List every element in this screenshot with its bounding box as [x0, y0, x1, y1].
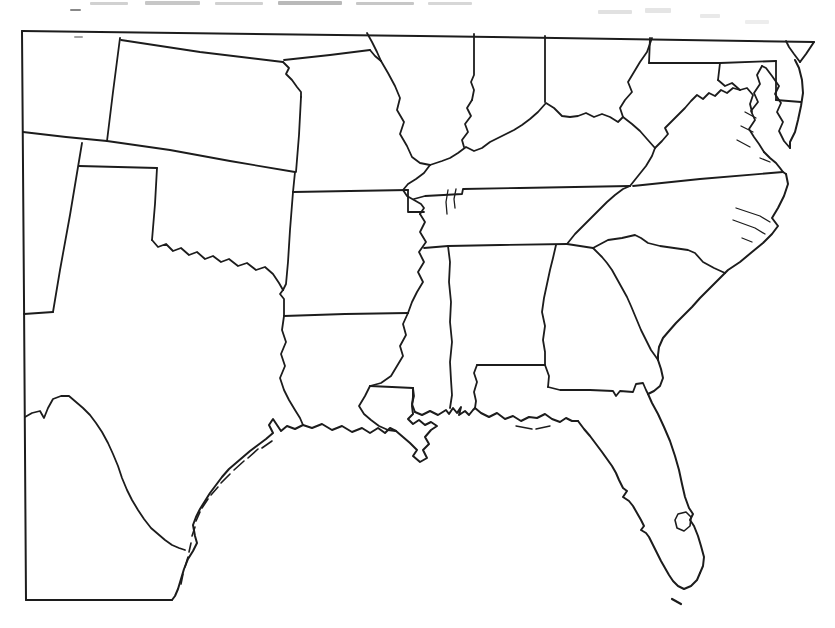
border-texas-arkansas — [280, 290, 284, 316]
border-newmexico-east — [53, 143, 82, 312]
border-florida-georgia — [548, 383, 648, 396]
river-mississippi-missouri-illinois — [381, 61, 430, 165]
sound-spit — [742, 238, 752, 242]
florida-keys — [672, 599, 681, 604]
border-colorado-kansas — [107, 38, 120, 141]
lake-okeechobee — [675, 512, 691, 531]
neatline-left — [22, 31, 26, 600]
scan-artifact-smudge — [145, 1, 200, 5]
sound-albemarle — [736, 208, 770, 222]
river-red-texas-oklahoma — [152, 240, 283, 290]
border-mason-dixon — [649, 61, 776, 63]
scan-artifact-smudge — [598, 10, 632, 14]
barrier-islands-texas — [189, 543, 191, 552]
coast-florida-east — [648, 394, 704, 573]
border-tennessee-south — [424, 244, 567, 248]
river-potomac — [718, 80, 753, 112]
river-mississippi-arkansas-tennessee — [408, 214, 426, 313]
border-iowa-missouri — [284, 50, 370, 60]
river-mississippi-upper — [367, 33, 381, 61]
border-oklahoma-missouri — [293, 172, 295, 192]
scan-artifact-smudge — [70, 9, 81, 11]
coast-southcarolina — [658, 273, 725, 360]
spit-apalachicola — [516, 426, 532, 429]
scan-artifact-smudge — [428, 2, 472, 5]
border-westvirginia-virginia — [655, 88, 740, 148]
border-texas-panhandle-east — [152, 168, 157, 240]
scan-artifact-smudge — [90, 2, 128, 5]
border-ohio-pennsylvania — [649, 38, 650, 63]
border-oklahoma-arkansas — [283, 192, 293, 290]
border-oklahoma-panhandle-south — [79, 166, 157, 168]
coast-delmarva-atlantic — [790, 60, 803, 148]
scan-artifact-smudge — [356, 2, 414, 5]
border-kentucky-virginia — [630, 148, 655, 186]
border-arkansas-louisiana — [284, 313, 408, 316]
us-southeast-outline-map — [0, 0, 835, 628]
border-louisiana-mississippi-31n — [370, 386, 413, 388]
river-cumberland-lake — [454, 189, 456, 208]
river-delaware-bay — [786, 41, 800, 62]
border-tennessee-northcarolina — [567, 186, 630, 244]
inlet-james — [737, 140, 750, 147]
coast-florida-west — [578, 421, 700, 589]
border-mississippi-alabama — [448, 246, 452, 408]
coast-mississippi-alabama — [415, 407, 475, 415]
border-newmexico-texas-32n — [24, 312, 53, 314]
scan-artifact-smudge — [700, 14, 720, 18]
border-nebraska-kansas — [121, 40, 283, 62]
inlet-hampton-roads — [760, 158, 770, 162]
river-missouri-bend — [283, 62, 301, 97]
coast-texas — [172, 419, 303, 600]
scanned-map-page — [0, 0, 835, 628]
scan-artifact-smudge — [278, 1, 342, 5]
border-illinois-indiana — [471, 34, 474, 100]
coast-newjersey — [800, 42, 814, 62]
neatline-top — [22, 31, 814, 42]
border-kansas-missouri — [296, 97, 301, 172]
river-chattahoochee-lower — [545, 365, 549, 387]
river-perdido — [474, 365, 477, 408]
scan-artifact-smudge — [745, 20, 769, 24]
border-colorado-newmexico-south — [23, 132, 107, 141]
coast-georgia — [648, 360, 663, 394]
river-rio-grande — [25, 396, 185, 550]
coast-northcarolina-outer-banks — [725, 174, 788, 273]
sound-pamlico — [733, 220, 765, 234]
border-virginia-northcarolina — [633, 172, 783, 186]
coast-florida-panhandle — [475, 408, 578, 422]
river-mississippi-louisiana-mississippi — [370, 313, 408, 386]
river-mississippi-lower — [359, 386, 396, 431]
river-big-sandy — [623, 117, 655, 148]
coast-louisiana-delta — [303, 388, 437, 462]
coast-virginia-norfolk — [764, 152, 786, 174]
border-alabama-georgia — [542, 245, 556, 365]
border-georgia-northcarolina — [567, 244, 593, 248]
river-savannah-georgia-southcarolina — [593, 248, 658, 360]
scan-artifact-smudge — [215, 2, 263, 5]
scan-artifact-smudge — [74, 36, 83, 38]
scan-artifact-smudge — [645, 8, 671, 13]
river-tennessee-lake — [446, 190, 448, 214]
spit-apalachicola — [536, 426, 550, 429]
river-sabine-texas-louisiana — [280, 316, 303, 425]
border-missouri-arkansas — [293, 190, 408, 192]
border-westvirginia-pennsylvania — [718, 63, 720, 80]
border-northcarolina-southcarolina — [593, 235, 725, 273]
river-wabash — [462, 100, 472, 147]
